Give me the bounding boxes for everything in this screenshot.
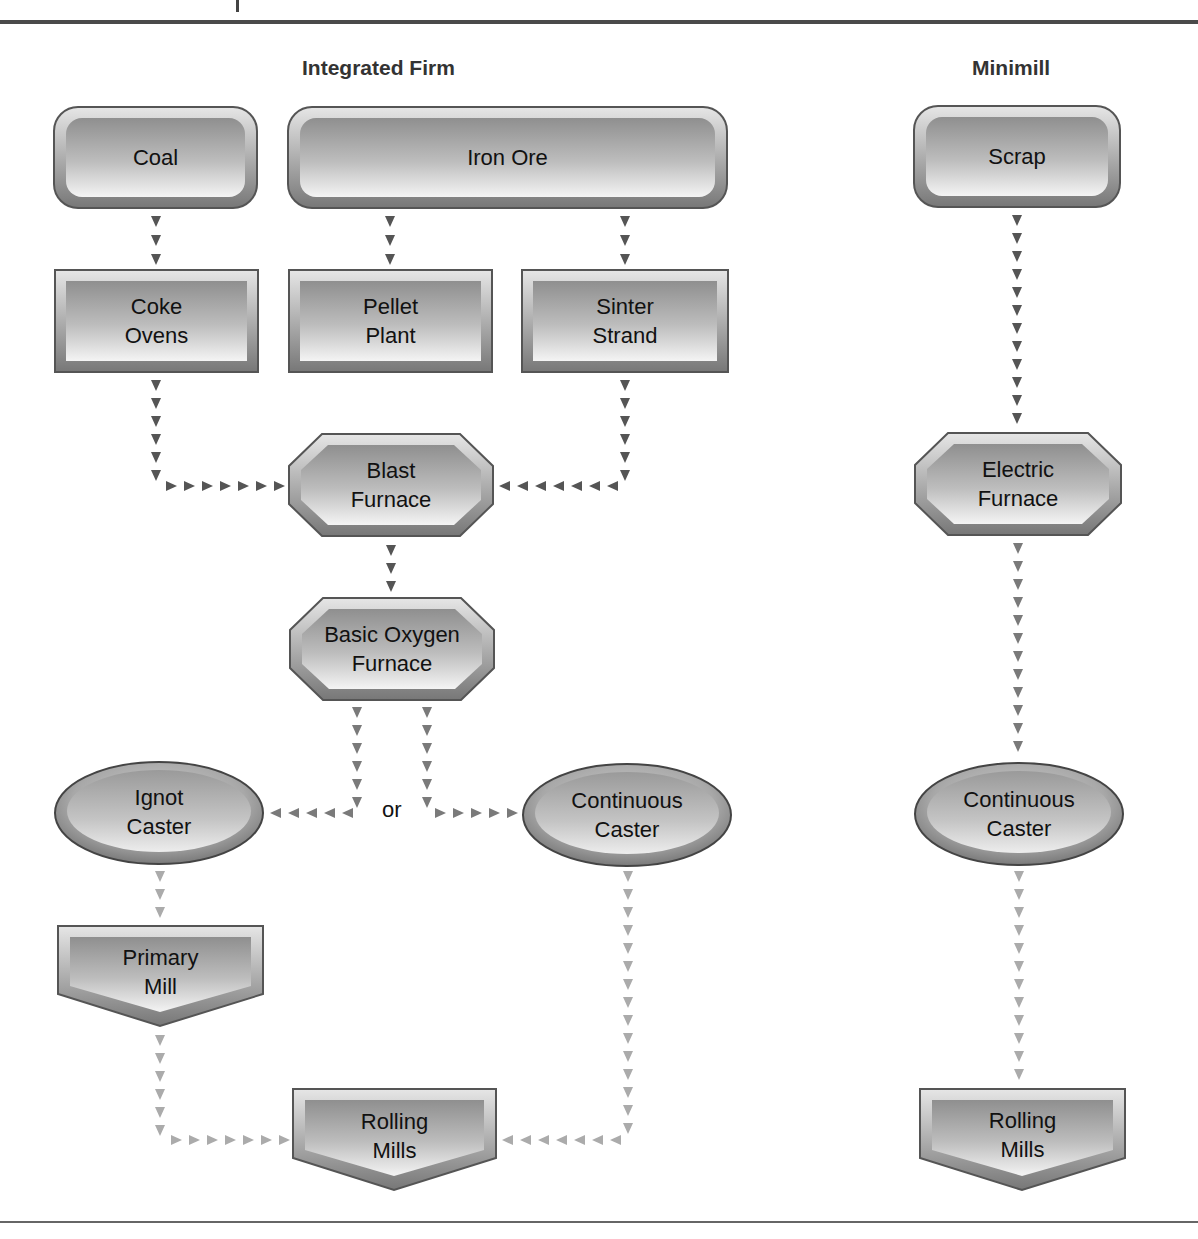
continuous-caster-integrated-label: Continuous Caster [535, 775, 719, 855]
electric-furnace-label: Electric Furnace [927, 444, 1109, 524]
scrap-label: Scrap [926, 117, 1108, 196]
or-label: or [382, 797, 402, 823]
arrows-light [155, 871, 1024, 1145]
primary-mill-label: Primary Mill [70, 940, 251, 1004]
blast-furnace-label: Blast Furnace [301, 445, 481, 525]
ingot-caster-label: Ignot Caster [67, 772, 251, 852]
rolling-mills-integrated-label: Rolling Mills [305, 1104, 484, 1168]
iron-ore-label: Iron Ore [300, 118, 715, 197]
pellet-plant-label: Pellet Plant [300, 281, 481, 361]
coal-label: Coal [66, 118, 245, 197]
bof-label: Basic Oxygen Furnace [290, 609, 494, 689]
sinter-strand-label: Sinter Strand [533, 281, 717, 361]
coke-ovens-label: Coke Ovens [66, 281, 247, 361]
rolling-mills-minimill-label: Rolling Mills [932, 1103, 1113, 1167]
continuous-caster-minimill-label: Continuous Caster [927, 774, 1111, 854]
